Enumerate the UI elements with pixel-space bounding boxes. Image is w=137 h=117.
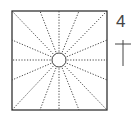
radial-diagram: 4 [0,0,137,117]
center-circle [52,53,66,67]
scale-symbol [115,40,131,66]
diagram-label: 4 [116,12,125,31]
